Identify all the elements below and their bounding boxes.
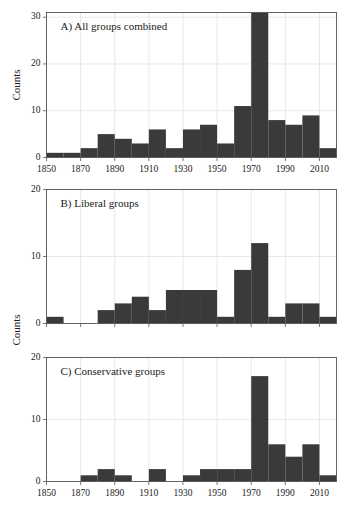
bar [200,125,217,158]
y-tick-label: 20 [31,58,41,68]
y-tick-label: 20 [31,352,41,362]
bar [47,317,64,324]
x-tick-label: 1910 [139,164,158,174]
bar [217,469,234,481]
bar [285,457,302,482]
bar [319,475,336,481]
panel-title: C) Conservative groups [61,365,165,378]
bar [98,310,115,323]
y-axis-title: Counts [10,69,22,100]
y-tick-label: 10 [31,105,41,115]
bar [64,153,81,158]
bar [47,153,64,158]
bar [183,290,200,324]
x-tick-label: 1930 [173,488,192,498]
bar [268,120,285,157]
bar [251,376,268,481]
bar [319,148,336,157]
bar [200,290,217,324]
x-tick-label: 1890 [105,164,124,174]
bar [302,303,319,323]
x-tick-label: 1890 [105,488,124,498]
y-tick-label: 0 [36,476,41,486]
figure-canvas: 0102030185018701890191019301950197019902… [0,0,350,515]
x-tick-label: 1870 [71,488,90,498]
bar [268,444,285,481]
bar [251,243,268,323]
bar [132,297,149,324]
bar [115,303,132,323]
x-tick-label: 1990 [276,164,295,174]
x-tick-label: 1990 [276,488,295,498]
x-tick-label: 2010 [310,164,329,174]
y-axis-title: Counts [10,314,22,345]
bar [115,139,132,158]
figure-background [0,0,350,515]
bar [149,469,166,481]
x-tick-label: 2010 [310,488,329,498]
x-tick-label: 1950 [208,488,227,498]
y-tick-label: 20 [31,184,41,194]
panel-title: B) Liberal groups [61,197,139,210]
y-tick-label: 10 [31,251,41,261]
x-tick-label: 1870 [71,164,90,174]
bar [285,125,302,158]
x-tick-label: 1910 [139,488,158,498]
bar [98,134,115,157]
x-axis: 185018701890191019301950197019902010 [37,482,329,498]
bar [302,444,319,481]
bar [183,475,200,481]
panel-title: A) All groups combined [61,20,168,33]
bar [234,106,251,157]
bar [132,143,149,157]
bar [149,129,166,157]
x-tick-label: 1850 [37,164,56,174]
bar [302,115,319,157]
x-axis: 185018701890191019301950197019902010 [37,158,329,174]
bar [251,13,268,158]
y-tick-label: 0 [36,318,41,328]
x-tick-label: 1970 [242,488,261,498]
bar [149,310,166,323]
x-tick-label: 1850 [37,488,56,498]
bar [183,129,200,157]
bar [319,317,336,324]
bar [285,303,302,323]
bar [98,469,115,481]
bar [81,148,98,157]
bar [200,469,217,481]
y-tick-label: 30 [31,11,41,21]
bar [166,290,183,324]
bar [81,475,98,481]
histogram-figure: 0102030185018701890191019301950197019902… [0,0,350,515]
bar [268,317,285,324]
bar [234,270,251,324]
y-tick-label: 0 [36,152,41,162]
bar [166,148,183,157]
x-tick-label: 1930 [173,164,192,174]
bar [217,317,234,324]
x-tick-label: 1970 [242,164,261,174]
bar [234,469,251,481]
bar [217,143,234,157]
bar [115,475,132,481]
x-tick-label: 1950 [208,164,227,174]
y-tick-label: 10 [31,414,41,424]
